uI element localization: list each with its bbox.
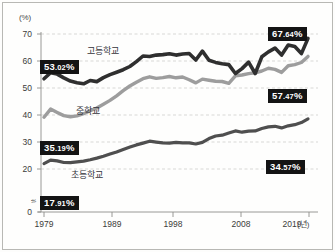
axis-lines (38, 32, 318, 212)
badge-int: 57 (272, 90, 283, 101)
badge-int: 17 (44, 197, 55, 208)
badge-int: 67 (272, 28, 283, 39)
x-tick-marks (44, 212, 309, 217)
x-tick-label-1989: 1989 (95, 219, 129, 229)
x-axis-unit-label: (년) (297, 218, 309, 229)
y-tick-label-40: 40 (14, 110, 32, 120)
badge-pct: % (294, 28, 303, 39)
badge-pct: % (66, 61, 75, 72)
y-axis-unit-label: (%) (19, 13, 31, 22)
y-tick-label-60: 60 (14, 56, 32, 66)
value-badge-high-school-start: 53.02% (40, 60, 79, 74)
badge-int: 53 (44, 61, 55, 72)
series-line-elementary-school (44, 119, 308, 164)
x-tick-label-1979: 1979 (27, 219, 61, 229)
series-label-elementary-school: 초등학교 (71, 168, 103, 181)
series-label-middle-school: 중학교 (76, 104, 100, 117)
value-badge-middle-school-start: 35.19% (40, 141, 79, 155)
y-tick-label-0: 0 (14, 207, 32, 217)
badge-dec: .64 (283, 30, 294, 39)
badge-pct: % (294, 90, 303, 101)
badge-dec: .57 (281, 163, 292, 172)
badge-pct: % (66, 142, 75, 153)
y-tick-label-30: 30 (14, 137, 32, 147)
value-badge-elementary-school-start: 17.91% (40, 196, 79, 210)
value-badge-middle-school-end: 57.47% (268, 89, 307, 103)
x-tick-label-2008: 2008 (224, 219, 258, 229)
badge-dec: .19 (55, 144, 66, 153)
y-tick-label-50: 50 (14, 83, 32, 93)
y-tick-label-70: 70 (14, 29, 32, 39)
badge-dec: .47 (283, 92, 294, 101)
badge-pct: % (66, 197, 75, 208)
series-label-high-school: 고등학교 (87, 44, 119, 57)
badge-dec: .91 (55, 199, 66, 208)
x-tick-label-1998: 1998 (156, 219, 190, 229)
badge-dec: .02 (55, 63, 66, 72)
value-badge-elementary-school-end: 34.57% (266, 160, 305, 174)
badge-int: 34 (270, 161, 281, 172)
value-badge-high-school-end: 67.64% (268, 27, 307, 41)
y-tick-label-20: 20 (14, 164, 32, 174)
chart-container: (%) 70 60 50 40 30 20 0 ≈ 1979 1989 1998… (0, 0, 335, 252)
badge-int: 35 (44, 142, 55, 153)
badge-pct: % (292, 161, 301, 172)
